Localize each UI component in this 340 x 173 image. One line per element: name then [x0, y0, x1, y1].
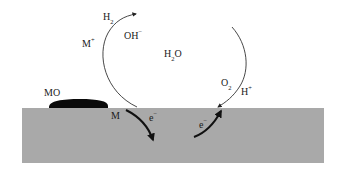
corrosion-diagram: H2 M+ OH− H2O O2 H+ MO M e− e− [0, 0, 340, 173]
label-m-plus: M+ [82, 39, 95, 49]
oxide-deposit [49, 99, 108, 108]
label-oh-minus: OH− [124, 31, 142, 41]
label-m: M [111, 111, 120, 121]
label-o2: O2 [221, 78, 231, 88]
label-h2o: H2O [164, 49, 182, 59]
label-h2: H2 [103, 12, 113, 22]
metal-substrate [22, 108, 324, 163]
label-mo: MO [44, 88, 60, 98]
anodic-cycle-arrow [103, 14, 137, 107]
label-e-right: e− [199, 120, 207, 130]
label-e-left: e− [149, 113, 157, 123]
label-h-plus: H+ [241, 87, 252, 97]
